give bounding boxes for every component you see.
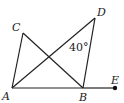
geometry-figure: A B C D E 40° (0, 0, 124, 103)
label-b: B (78, 91, 87, 103)
label-d: D (96, 6, 106, 19)
label-e: E (110, 74, 119, 87)
label-a: A (1, 90, 10, 103)
label-c: C (12, 21, 21, 34)
angle-label: 40° (69, 41, 89, 54)
